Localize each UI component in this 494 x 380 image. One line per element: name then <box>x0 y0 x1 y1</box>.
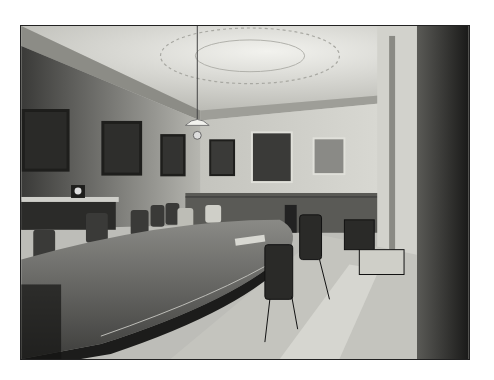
right-wall <box>417 26 469 359</box>
boardroom-photograph <box>20 25 470 360</box>
boardroom-scene <box>21 26 469 359</box>
